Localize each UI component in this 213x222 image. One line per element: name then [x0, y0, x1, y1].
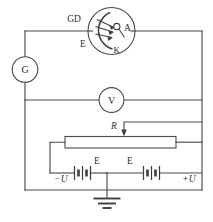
phototube-window-label: E: [80, 39, 86, 49]
battery-left-cell-label: E: [94, 156, 100, 166]
voltmeter[interactable]: V: [99, 88, 124, 113]
rheostat-label: R: [110, 121, 117, 131]
battery-right-terminal-label: +U: [182, 174, 196, 184]
voltmeter-label: V: [108, 95, 116, 106]
battery-right-cell-label: E: [127, 156, 133, 166]
battery-left-terminal-label: −U: [54, 174, 68, 184]
rheostat-wiper-lead: [121, 122, 202, 137]
rheostat[interactable]: R: [65, 121, 176, 149]
battery-right[interactable]: E +U: [127, 156, 197, 184]
galvanometer[interactable]: G: [12, 57, 38, 83]
galvanometer-label: G: [21, 64, 28, 75]
battery-left[interactable]: E −U: [54, 156, 100, 184]
phototube-cathode-label: K: [113, 45, 120, 55]
circuit-diagram: G GD E A K: [0, 0, 213, 222]
phototube-light-label: GD: [67, 14, 81, 24]
circuit-canvas: G GD E A K: [0, 0, 213, 222]
phototube-anode-label: A: [124, 23, 131, 33]
rheostat-left-lead: [50, 142, 65, 173]
